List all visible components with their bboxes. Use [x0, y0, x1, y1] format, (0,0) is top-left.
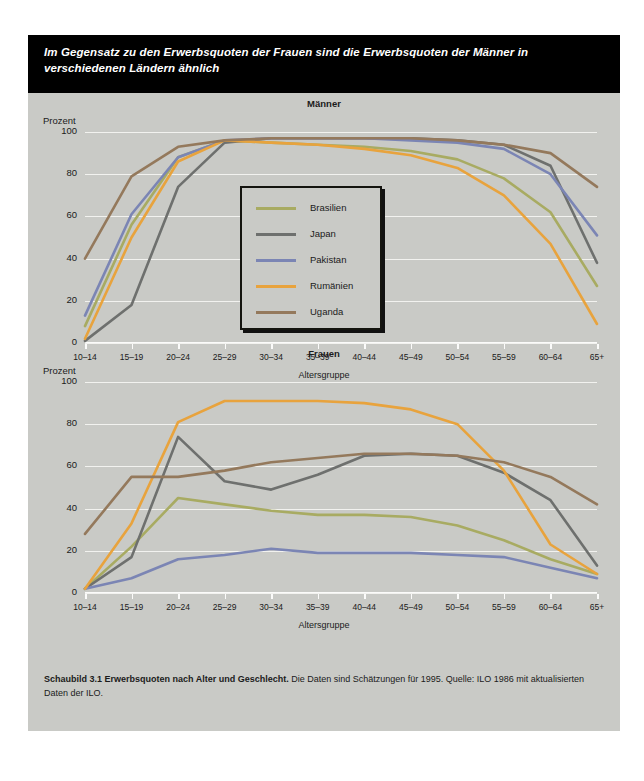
- y-axis-tick-label: 20: [51, 294, 77, 305]
- x-axis-tick-mark: [225, 594, 227, 599]
- y-axis-tick-label: 20: [51, 544, 77, 555]
- y-axis-tick-label: 0: [51, 586, 77, 597]
- x-axis-tick-mark: [132, 594, 134, 599]
- x-axis-tick-label: 40–44: [338, 602, 390, 612]
- legend-swatch-icon: [256, 259, 296, 262]
- chart-frauen: Frauen Prozent 02040608010010–1415–1920–…: [28, 348, 620, 648]
- x-axis-tick-label: 35–39: [292, 602, 344, 612]
- x-axis-tick-label: 45–49: [385, 602, 437, 612]
- y-axis-tick-label: 40: [51, 502, 77, 513]
- chart-title-frauen: Frauen: [28, 348, 620, 359]
- x-axis-tick-label: 50–54: [431, 602, 483, 612]
- x-axis-tick-mark: [178, 594, 180, 599]
- x-axis-tick-label: 65+: [571, 602, 623, 612]
- legend-swatch-icon: [256, 285, 296, 288]
- x-axis-tick-label: 55–59: [478, 602, 530, 612]
- legend-label: Japan: [310, 228, 336, 239]
- legend-label: Rumänien: [310, 280, 353, 291]
- y-axis-tick-label: 80: [51, 167, 77, 178]
- legend-label: Uganda: [310, 306, 343, 317]
- plot-area-frauen: 02040608010010–1415–1920–2425–2930–3435–…: [85, 382, 597, 593]
- y-axis-tick-label: 100: [51, 375, 77, 386]
- x-axis-tick-mark: [318, 594, 320, 599]
- x-axis-tick-mark: [85, 594, 87, 599]
- gridline: [85, 593, 597, 594]
- x-axis-tick-label: 20–24: [152, 602, 204, 612]
- y-axis-tick-label: 100: [51, 125, 77, 136]
- x-axis-tick-mark: [457, 594, 459, 599]
- figure-caption: Schaubild 3.1 Erwerbsquoten nach Alter u…: [44, 672, 604, 700]
- legend-label: Pakistan: [310, 254, 346, 265]
- legend-box[interactable]: BrasilienJapanPakistanRumänienUganda: [240, 186, 382, 330]
- series-layer: [85, 382, 597, 593]
- figure-page: Im Gegensatz zu den Erwerbsquoten der Fr…: [0, 0, 644, 781]
- y-axis-tick-label: 80: [51, 417, 77, 428]
- caption-bold: Schaubild 3.1 Erwerbsquoten nach Alter u…: [44, 674, 289, 684]
- x-axis-label-frauen: Altersgruppe: [28, 620, 620, 630]
- legend-label: Brasilien: [310, 202, 346, 213]
- x-axis-tick-mark: [597, 594, 599, 599]
- gridline: [85, 343, 597, 344]
- y-axis-tick-label: 0: [51, 336, 77, 347]
- x-axis-tick-mark: [504, 594, 506, 599]
- headline-band: Im Gegensatz zu den Erwerbsquoten der Fr…: [28, 35, 620, 93]
- chart-title-maenner: Männer: [28, 98, 620, 109]
- y-axis-tick-label: 60: [51, 209, 77, 220]
- x-axis-tick-label: 60–64: [524, 602, 576, 612]
- legend-swatch-icon: [256, 233, 296, 236]
- x-axis-tick-mark: [550, 594, 552, 599]
- y-axis-tick-label: 60: [51, 459, 77, 470]
- headline-text: Im Gegensatz zu den Erwerbsquoten der Fr…: [44, 44, 608, 76]
- x-axis-tick-label: 25–29: [199, 602, 251, 612]
- x-axis-tick-label: 15–19: [106, 602, 158, 612]
- x-axis-tick-label: 10–14: [59, 602, 111, 612]
- x-axis-tick-mark: [271, 594, 273, 599]
- legend-swatch-icon: [256, 207, 296, 210]
- series-line-brasilien: [85, 498, 597, 589]
- legend-swatch-icon: [256, 311, 296, 314]
- x-axis-tick-mark: [364, 594, 366, 599]
- y-axis-tick-label: 40: [51, 252, 77, 263]
- x-axis-tick-label: 30–34: [245, 602, 297, 612]
- x-axis-tick-mark: [411, 594, 413, 599]
- series-line-pakistan: [85, 549, 597, 589]
